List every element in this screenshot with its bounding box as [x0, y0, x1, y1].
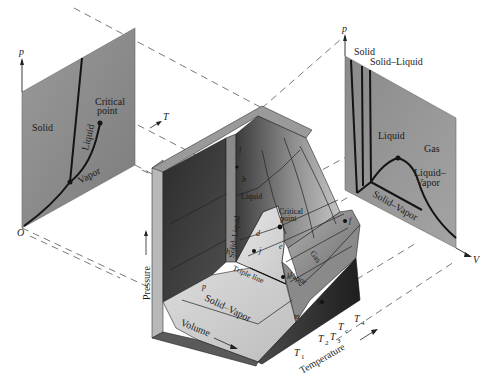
svg-text:T: T [318, 333, 325, 344]
pV-critical-dot [396, 156, 401, 161]
point-label-h: h [226, 247, 230, 256]
svg-text:3: 3 [337, 337, 341, 345]
point-k [281, 275, 285, 279]
T-axis-label: T [163, 111, 170, 122]
pVT-surface: Solid–Liquid Liquid Critical point Gas V… [141, 106, 378, 376]
surface-label-critical-2: point [280, 214, 297, 223]
svg-text:T: T [294, 347, 301, 358]
point-a [235, 165, 238, 168]
pV-axis-V-label: V [473, 254, 481, 265]
pressure-axis-label: Pressure [141, 266, 152, 300]
solid-block-side [152, 160, 163, 338]
pV-label-liquid: Liquid [378, 130, 405, 141]
pV-projection: p V Solid Solid–Liquid Liquid Gas Liquid… [341, 23, 481, 265]
svg-text:T: T [354, 313, 361, 324]
svg-text:c: c [345, 327, 348, 335]
pV-label-solid-liquid: Solid–Liquid [370, 56, 423, 67]
svg-text:1: 1 [301, 353, 305, 361]
point-label-g: g [317, 296, 321, 305]
svg-text:2: 2 [325, 339, 329, 347]
point-label-k: k [287, 272, 291, 281]
temperature-axis-arrow-icon [371, 329, 378, 335]
pV-label-gas: Gas [424, 143, 440, 154]
p-axis-arrow-icon [20, 58, 24, 65]
pV-p-axis-arrow-icon [343, 34, 347, 41]
point-label-p: p [201, 282, 206, 291]
pV-label-liquid-vapor-2: Vapor [416, 177, 441, 188]
surface-label-liquid: Liquid [241, 192, 262, 201]
temperature-axis-label: Temperature [298, 341, 348, 376]
pT-critical-label-2: point [97, 105, 118, 116]
svg-text:T: T [338, 321, 345, 332]
point-label-e: e [279, 242, 283, 251]
pT-origin-label: O [17, 227, 24, 238]
phase-diagram-figure: p O Solid Liquid Vapor Critical point p … [0, 0, 484, 384]
pT-projection: p O Solid Liquid Vapor Critical point [17, 28, 135, 238]
svg-text:4: 4 [361, 319, 365, 327]
critical-point-dot [98, 121, 103, 126]
pV-axis-p-label: p [341, 23, 347, 34]
point-j [252, 249, 256, 253]
point-f [343, 219, 347, 223]
point-label-b: b [242, 175, 246, 184]
svg-text:T: T [330, 331, 337, 342]
point-label-n: m [294, 312, 300, 321]
pT-axis-p-label: p [18, 46, 24, 57]
T-axis-arrow-icon [156, 121, 162, 126]
triple-point-dot [68, 180, 73, 185]
pT-label-solid: Solid [32, 122, 53, 133]
critical-point-3d [278, 225, 283, 230]
V-axis-arrow-icon [464, 252, 472, 257]
pressure-axis-arrow-icon [144, 230, 148, 236]
